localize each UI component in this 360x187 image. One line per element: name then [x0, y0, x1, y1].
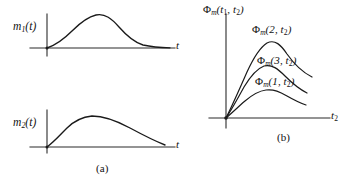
- m1-curve: [47, 15, 170, 48]
- phi-x-axis-label: t2: [331, 110, 338, 122]
- m2-curve: [47, 116, 165, 147]
- phi-origin-marker: [224, 116, 228, 120]
- m2-axis-label: m2(t): [13, 117, 36, 130]
- panel-a-caption: (a): [96, 163, 109, 174]
- phi-y-axis-label: Φm(t1, t2): [203, 4, 244, 16]
- figure-root: m1(t) t m2(t) t (a) Φ: [0, 0, 360, 187]
- m1-axis-label: m1(t): [13, 21, 36, 34]
- phi-curve-3-label: Φm(3, t2): [257, 55, 296, 67]
- phi-curve-1-label: Φm(1, t2): [255, 76, 294, 88]
- plot-m1-waveform: [0, 0, 195, 95]
- m1-origin-marker: [46, 47, 49, 50]
- m2-origin-marker: [46, 146, 49, 149]
- phi-curve-1: [226, 90, 306, 118]
- phi-curve-2-label: Φm(2, t2): [252, 24, 291, 36]
- panel-b: Φm(t1, t2) Φm(2, t2) Φm(3, t2) Φm(1, t2)…: [195, 0, 360, 187]
- panel-a: m1(t) t m2(t) t (a): [0, 0, 195, 187]
- m2-x-axis-label: t: [176, 139, 179, 150]
- m1-x-axis-label: t: [176, 40, 179, 51]
- panel-b-caption: (b): [277, 132, 290, 143]
